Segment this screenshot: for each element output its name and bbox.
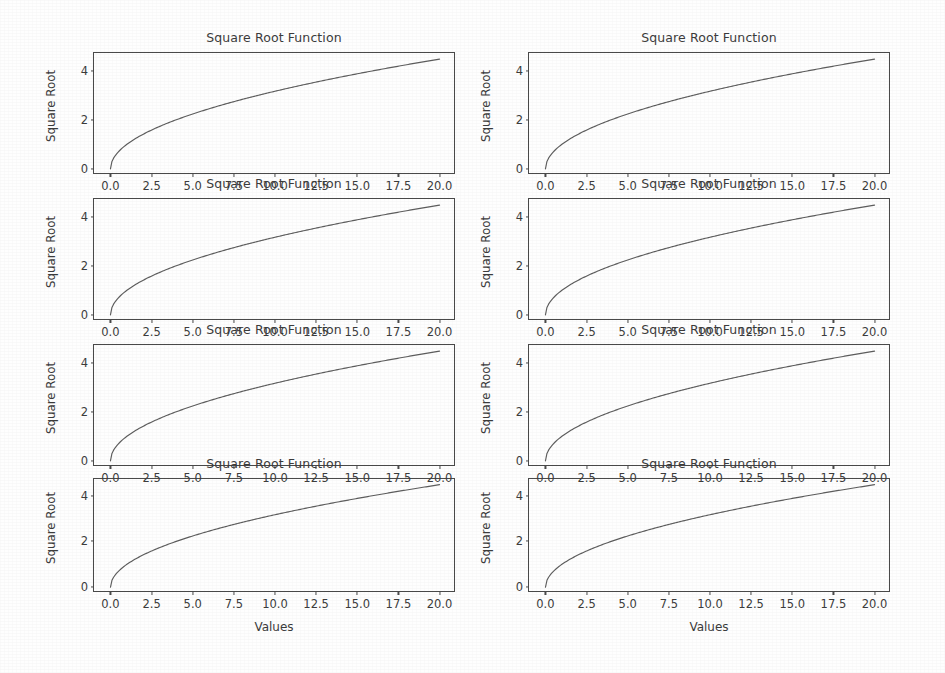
y-tick-mark xyxy=(526,314,530,315)
y-tick-mark xyxy=(526,541,530,542)
y-tick-mark xyxy=(91,265,95,266)
x-axis-label: Values xyxy=(528,620,890,634)
x-tick-label: 17.5 xyxy=(386,597,412,611)
x-tick-label: 5.0 xyxy=(619,471,637,485)
sqrt-curve-layer xyxy=(94,53,456,175)
x-tick-label: 12.5 xyxy=(303,471,329,485)
y-axis-label: Square Root xyxy=(479,504,493,564)
y-tick-label: 4 xyxy=(516,356,523,370)
x-tick-mark xyxy=(627,591,628,595)
y-tick-mark xyxy=(91,70,95,71)
y-tick-mark xyxy=(91,362,95,363)
y-axis-label: Square Root xyxy=(479,228,493,288)
x-tick-label: 10.0 xyxy=(262,471,288,485)
x-tick-label: 5.0 xyxy=(619,597,637,611)
x-tick-mark xyxy=(316,591,317,595)
y-tick-mark xyxy=(91,541,95,542)
matplotlib-figure: Square Root Function0240.02.55.07.510.01… xyxy=(0,0,945,673)
y-tick-mark xyxy=(91,168,95,169)
x-tick-label: 12.5 xyxy=(738,471,764,485)
x-tick-label: 20.0 xyxy=(862,597,888,611)
x-tick-mark xyxy=(792,591,793,595)
y-tick-label: 2 xyxy=(516,259,523,273)
y-tick-label: 4 xyxy=(81,210,88,224)
subplot-title: Square Root Function xyxy=(93,456,455,471)
x-tick-mark xyxy=(751,591,752,595)
series-sqrt-x xyxy=(110,351,439,461)
plot-axes: 0240.02.55.07.510.012.515.017.520.0 xyxy=(93,478,455,592)
series-sqrt-x xyxy=(545,351,874,461)
x-tick-label: 7.5 xyxy=(660,597,678,611)
y-tick-label: 2 xyxy=(81,259,88,273)
x-tick-mark xyxy=(874,591,875,595)
x-tick-label: 2.5 xyxy=(577,471,595,485)
y-tick-mark xyxy=(91,119,95,120)
x-tick-label: 7.5 xyxy=(660,471,678,485)
x-tick-label: 2.5 xyxy=(142,471,160,485)
x-tick-label: 10.0 xyxy=(697,597,723,611)
x-tick-label: 10.0 xyxy=(697,471,723,485)
y-tick-label: 4 xyxy=(516,489,523,503)
y-tick-label: 2 xyxy=(81,405,88,419)
y-tick-label: 2 xyxy=(516,534,523,548)
x-tick-label: 0.0 xyxy=(536,597,554,611)
subplot-title: Square Root Function xyxy=(528,456,890,471)
x-tick-mark xyxy=(709,591,710,595)
x-tick-label: 20.0 xyxy=(427,471,453,485)
subplot-title: Square Root Function xyxy=(93,176,455,191)
sqrt-curve-layer xyxy=(529,345,891,467)
x-tick-mark xyxy=(545,591,546,595)
x-tick-label: 15.0 xyxy=(779,471,805,485)
y-tick-mark xyxy=(526,216,530,217)
x-tick-mark xyxy=(233,591,234,595)
y-tick-mark xyxy=(526,362,530,363)
plot-axes: 0240.02.55.07.510.012.515.017.520.0 xyxy=(528,344,890,466)
sqrt-curve-layer xyxy=(94,199,456,321)
sqrt-curve-layer xyxy=(94,479,456,593)
y-tick-label: 4 xyxy=(81,64,88,78)
x-tick-label: 17.5 xyxy=(386,471,412,485)
plot-axes: 0240.02.55.07.510.012.515.017.520.0 xyxy=(93,52,455,174)
series-sqrt-x xyxy=(545,485,874,588)
x-tick-label: 17.5 xyxy=(821,471,847,485)
plot-axes: 0240.02.55.07.510.012.515.017.520.0 xyxy=(93,344,455,466)
plot-axes: 0240.02.55.07.510.012.515.017.520.0 xyxy=(528,52,890,174)
x-tick-mark xyxy=(833,591,834,595)
x-tick-mark xyxy=(110,591,111,595)
subplot-title: Square Root Function xyxy=(528,176,890,191)
subplot-title: Square Root Function xyxy=(93,30,455,45)
x-tick-mark xyxy=(151,591,152,595)
y-tick-label: 2 xyxy=(516,405,523,419)
plot-axes: 0240.02.55.07.510.012.515.017.520.0 xyxy=(528,198,890,320)
y-axis-label: Square Root xyxy=(44,504,58,564)
x-axis-label: Values xyxy=(93,620,455,634)
x-tick-label: 10.0 xyxy=(262,597,288,611)
y-tick-mark xyxy=(91,495,95,496)
x-tick-label: 5.0 xyxy=(184,597,202,611)
y-tick-label: 4 xyxy=(516,210,523,224)
x-tick-label: 2.5 xyxy=(577,597,595,611)
y-axis-label: Square Root xyxy=(44,228,58,288)
y-tick-label: 0 xyxy=(516,580,523,594)
x-tick-mark xyxy=(586,591,587,595)
x-tick-label: 12.5 xyxy=(738,597,764,611)
sqrt-curve-layer xyxy=(529,199,891,321)
y-tick-mark xyxy=(91,587,95,588)
x-tick-label: 7.5 xyxy=(225,597,243,611)
y-tick-mark xyxy=(526,265,530,266)
y-tick-mark xyxy=(91,411,95,412)
series-sqrt-x xyxy=(545,205,874,315)
x-tick-label: 5.0 xyxy=(184,471,202,485)
y-axis-label: Square Root xyxy=(44,374,58,434)
sqrt-curve-layer xyxy=(529,53,891,175)
y-tick-mark xyxy=(91,314,95,315)
y-tick-mark xyxy=(526,119,530,120)
sqrt-curve-layer xyxy=(529,479,891,593)
y-tick-mark xyxy=(526,587,530,588)
plot-axes: 0240.02.55.07.510.012.515.017.520.0 xyxy=(93,198,455,320)
x-tick-label: 0.0 xyxy=(536,471,554,485)
x-tick-mark xyxy=(357,591,358,595)
y-tick-label: 2 xyxy=(81,113,88,127)
x-tick-label: 20.0 xyxy=(862,471,888,485)
x-tick-label: 15.0 xyxy=(344,471,370,485)
